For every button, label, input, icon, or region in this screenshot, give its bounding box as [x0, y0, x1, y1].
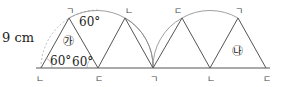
- vertex-top-2: ㄴ: [125, 6, 133, 16]
- triangle-2: [98, 18, 153, 68]
- vertex-bottom-3: ㄱ: [150, 74, 158, 84]
- vertex-bottom-1: ㄴ: [36, 74, 44, 84]
- angle-label-left: 60°: [50, 54, 71, 68]
- vertex-top-1: ㄱ: [66, 6, 74, 16]
- triangle-na: [210, 18, 266, 68]
- arc-3: [182, 10, 238, 18]
- region-label-na: ㉯: [232, 45, 243, 58]
- vertex-bottom-2: ㄷ: [95, 74, 103, 84]
- side-label: 9 cm: [2, 30, 34, 45]
- angle-label-top: 60°: [79, 15, 100, 29]
- vertex-top-3: ㄷ: [174, 6, 182, 16]
- vertex-bottom-5: ㄷ: [263, 74, 271, 84]
- triangle-3: [153, 18, 210, 68]
- rolling-triangle-diagram: 9 cm 60° 60° 60° ㉮ ㉯ ㄱ ㄴ ㄷ ㄱ ㄴ ㄷ ㄱ ㄴ ㄷ: [0, 0, 288, 87]
- vertex-top-4: ㄱ: [235, 6, 243, 16]
- angle-label-right: 60°: [72, 55, 93, 69]
- region-label-ga: ㉮: [63, 35, 74, 48]
- vertex-bottom-4: ㄴ: [207, 74, 215, 84]
